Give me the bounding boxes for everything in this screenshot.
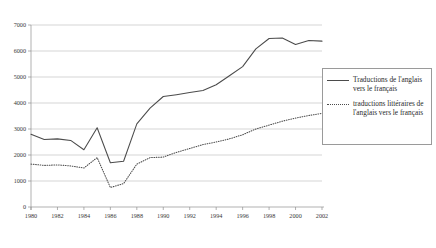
x-tick-label: 1992 [184,212,196,219]
y-tick-label: 2000 [14,151,26,158]
x-tick-label: 2000 [289,212,301,219]
y-axis-group: 01000200030004000500060007000 [14,21,31,210]
x-tick-label: 1996 [236,212,248,219]
series-line-total-translations [31,38,322,163]
y-tick-label: 1000 [14,177,26,184]
gridlines-group [31,25,322,181]
x-tick-label: 1998 [263,212,275,219]
legend-label-total-translations: Traductions de l'anglais vers le françai… [353,75,427,94]
y-tick-label: 0 [23,203,26,210]
legend-item-literary-translations: traductions littéraires de l'anglais ver… [327,99,427,118]
legend-line-solid-icon [327,77,349,85]
legend-item-total-translations: Traductions de l'anglais vers le françai… [327,75,427,94]
legend-line-dotted-icon [327,101,349,109]
legend-label-literary-translations: traductions littéraires de l'anglais ver… [353,99,427,118]
x-tick-label: 1982 [51,212,63,219]
x-tick-label: 1980 [25,212,37,219]
chart-figure: 01000200030004000500060007000 1980198219… [0,0,436,248]
x-tick-label: 1990 [157,212,169,219]
x-tick-label: 2002 [316,212,328,219]
chart-legend: Traductions de l'anglais vers le françai… [322,68,432,145]
x-tick-label: 1988 [131,212,143,219]
y-tick-label: 4000 [14,99,26,106]
y-tick-label: 5000 [14,73,26,80]
y-tick-label: 3000 [14,125,26,132]
y-tick-label: 6000 [14,47,26,54]
x-tick-label: 1994 [210,212,222,219]
y-tick-label: 7000 [14,21,26,28]
x-tick-label: 1986 [104,212,116,219]
series-line-literary-translations [31,113,322,187]
x-tick-label: 1984 [78,212,90,219]
x-axis-group: 1980198219841986198819901992199419961998… [25,207,328,219]
series-group [31,38,322,188]
